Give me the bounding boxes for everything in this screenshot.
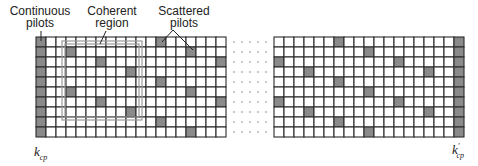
data-cell bbox=[374, 67, 384, 77]
continuous-pilot-cell bbox=[454, 67, 464, 77]
data-cell bbox=[374, 37, 384, 47]
data-cell bbox=[294, 47, 304, 57]
data-cell bbox=[46, 127, 56, 137]
data-cell bbox=[126, 47, 136, 57]
ellipsis-dot bbox=[233, 131, 235, 133]
data-cell bbox=[106, 77, 116, 87]
data-cell bbox=[46, 97, 56, 107]
continuous-pilot-cell bbox=[454, 47, 464, 57]
data-cell bbox=[166, 87, 176, 97]
data-cell bbox=[106, 47, 116, 57]
ellipsis-dot bbox=[249, 41, 251, 43]
data-cell bbox=[314, 77, 324, 87]
scattered-pilot-cell bbox=[156, 37, 166, 47]
data-cell bbox=[196, 47, 206, 57]
continuous-pilot-cell bbox=[36, 77, 46, 87]
data-cell bbox=[206, 37, 216, 47]
data-cell bbox=[304, 77, 314, 87]
data-cell bbox=[284, 77, 294, 87]
ellipsis-dot bbox=[265, 101, 267, 103]
data-cell bbox=[424, 57, 434, 67]
data-cell bbox=[146, 67, 156, 77]
data-cell bbox=[434, 87, 444, 97]
scattered-pilot-cell bbox=[394, 97, 404, 107]
scattered-pilot-cell bbox=[274, 97, 284, 107]
data-cell bbox=[444, 67, 454, 77]
data-cell bbox=[414, 87, 424, 97]
data-cell bbox=[344, 87, 354, 97]
ellipsis-dot bbox=[249, 101, 251, 103]
data-cell bbox=[364, 77, 374, 87]
data-cell bbox=[136, 77, 146, 87]
data-cell bbox=[274, 107, 284, 117]
ellipsis-dot bbox=[241, 61, 243, 63]
data-cell bbox=[354, 127, 364, 137]
data-cell bbox=[136, 107, 146, 117]
data-cell bbox=[216, 87, 226, 97]
data-cell bbox=[444, 37, 454, 47]
data-cell bbox=[294, 117, 304, 127]
data-cell bbox=[176, 47, 186, 57]
data-cell bbox=[384, 37, 394, 47]
data-cell bbox=[86, 67, 96, 77]
data-cell bbox=[434, 127, 444, 137]
data-cell bbox=[304, 47, 314, 57]
ellipsis-dot bbox=[233, 111, 235, 113]
data-cell bbox=[324, 117, 334, 127]
ellipsis-dot bbox=[249, 91, 251, 93]
data-cell bbox=[394, 47, 404, 57]
data-cell bbox=[76, 77, 86, 87]
data-cell bbox=[294, 77, 304, 87]
data-cell bbox=[334, 107, 344, 117]
data-cell bbox=[176, 77, 186, 87]
data-cell bbox=[136, 127, 146, 137]
data-cell bbox=[354, 67, 364, 77]
data-cell bbox=[66, 117, 76, 127]
data-cell bbox=[66, 107, 76, 117]
continuous-pilots-label-line2: pilots bbox=[2, 17, 78, 29]
ellipsis-dots bbox=[233, 41, 267, 133]
data-cell bbox=[66, 77, 76, 87]
scattered-pilot-cell bbox=[186, 87, 196, 97]
data-cell bbox=[334, 47, 344, 57]
data-cell bbox=[106, 57, 116, 67]
data-cell bbox=[434, 57, 444, 67]
data-cell bbox=[106, 117, 116, 127]
data-cell bbox=[106, 37, 116, 47]
data-cell bbox=[156, 47, 166, 57]
data-cell bbox=[216, 47, 226, 57]
data-cell bbox=[146, 117, 156, 127]
data-cell bbox=[284, 117, 294, 127]
ellipsis-dot bbox=[241, 131, 243, 133]
data-cell bbox=[136, 37, 146, 47]
data-cell bbox=[66, 127, 76, 137]
data-cell bbox=[384, 127, 394, 137]
data-cell bbox=[176, 67, 186, 77]
data-cell bbox=[294, 57, 304, 67]
data-cell bbox=[374, 107, 384, 117]
data-cell bbox=[126, 87, 136, 97]
data-cell bbox=[344, 67, 354, 77]
data-cell bbox=[374, 57, 384, 67]
ellipsis-dot bbox=[257, 81, 259, 83]
continuous-pilot-cell bbox=[36, 87, 46, 97]
data-cell bbox=[324, 37, 334, 47]
data-cell bbox=[196, 117, 206, 127]
data-cell bbox=[206, 97, 216, 107]
data-cell bbox=[86, 37, 96, 47]
data-cell bbox=[354, 107, 364, 117]
data-cell bbox=[196, 127, 206, 137]
scattered-pilot-cell bbox=[96, 97, 106, 107]
data-cell bbox=[126, 127, 136, 137]
data-cell bbox=[196, 87, 206, 97]
data-cell bbox=[216, 37, 226, 47]
data-cell bbox=[404, 117, 414, 127]
data-cell bbox=[206, 87, 216, 97]
data-cell bbox=[324, 127, 334, 137]
ellipsis-dot bbox=[265, 131, 267, 133]
ellipsis-dot bbox=[241, 41, 243, 43]
scattered-pilot-cell bbox=[156, 117, 166, 127]
data-cell bbox=[126, 117, 136, 127]
data-cell bbox=[76, 47, 86, 57]
data-cell bbox=[304, 117, 314, 127]
